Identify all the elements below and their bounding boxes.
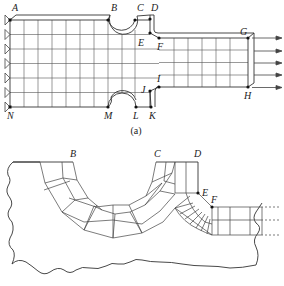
label-J: J (141, 84, 146, 95)
label-I: I (156, 73, 161, 84)
node-E-marker (148, 31, 151, 34)
label-M: M (103, 110, 113, 121)
arrow-icon (252, 86, 282, 90)
label-G: G (240, 26, 247, 37)
support-icon (5, 59, 10, 69)
figure-a: A B C D E F G H I J K L M N (a) (5, 2, 282, 137)
label-L: L (132, 110, 139, 121)
right-block-grid (159, 38, 248, 87)
label-B-b: B (70, 148, 76, 159)
node-M-marker (106, 105, 109, 108)
body-outline (7, 162, 262, 274)
node-N-marker (9, 106, 12, 109)
label-F-b: F (210, 194, 218, 205)
figure-b: B C D E F (7, 148, 280, 274)
load-arrows (252, 36, 282, 90)
fem-mesh-figure: A B C D E F G H I J K L M N (a) (0, 0, 284, 286)
node-L-marker (134, 105, 137, 108)
node-F-marker (157, 36, 160, 39)
label-E-b: E (201, 187, 208, 198)
node-D-marker (148, 17, 151, 20)
left-block-grid (10, 20, 159, 107)
node-H-marker (246, 85, 249, 88)
node-I-marker (157, 85, 160, 88)
arrow-icon (252, 36, 282, 40)
label-N: N (6, 110, 15, 121)
label-C-b: C (154, 148, 161, 159)
part-outline (10, 15, 254, 107)
node-B-marker (106, 18, 109, 21)
label-B: B (111, 2, 117, 13)
node-E-marker-b (196, 191, 199, 194)
fixed-supports (5, 15, 10, 112)
node-C-marker (133, 18, 136, 21)
label-F: F (156, 41, 164, 52)
support-icon (5, 73, 10, 83)
arrow-icon (254, 49, 282, 53)
support-icon (5, 88, 10, 98)
label-C: C (137, 2, 144, 13)
label-A: A (11, 2, 19, 13)
label-H: H (243, 90, 252, 101)
support-icon (5, 44, 10, 54)
label-K: K (148, 110, 157, 121)
node-J-marker (148, 89, 151, 92)
arrow-icon (254, 73, 282, 77)
node-F-marker-b (210, 205, 213, 208)
label-D-b: D (193, 148, 202, 159)
caption-a: (a) (130, 125, 141, 137)
label-E: E (137, 37, 144, 48)
node-A-marker (9, 19, 12, 22)
notch-outer-arc (40, 162, 175, 238)
label-D: D (150, 2, 159, 13)
node-K-marker (149, 105, 152, 108)
arrow-icon (254, 61, 282, 65)
support-icon (5, 30, 10, 40)
